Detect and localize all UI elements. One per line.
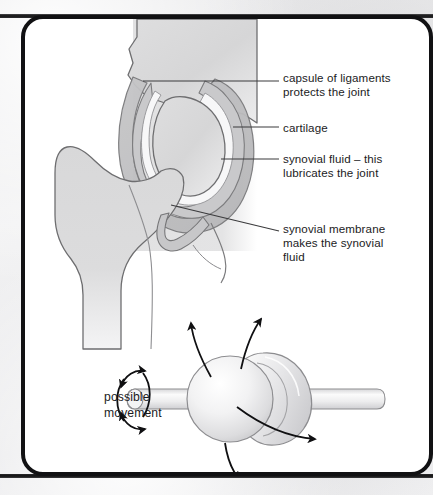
label-capsule-of-ligaments: capsule of ligaments protects the joint: [283, 71, 429, 99]
arrow-abduction-down: [225, 443, 239, 472]
label-cartilage: cartilage: [283, 121, 429, 135]
label-possible-movement: possible movement: [104, 389, 214, 421]
figure-inner: capsule of ligaments protects the joint …: [25, 19, 429, 472]
arrow-rotation-upper: [121, 371, 145, 387]
label-synovial-membrane: synovial membrane makes the synovial flu…: [283, 222, 429, 265]
screenshot-root: capsule of ligaments protects the joint …: [0, 0, 433, 495]
figure-card: capsule of ligaments protects the joint …: [21, 15, 433, 476]
label-synovial-fluid: synovial fluid – this lubricates the joi…: [283, 152, 429, 180]
